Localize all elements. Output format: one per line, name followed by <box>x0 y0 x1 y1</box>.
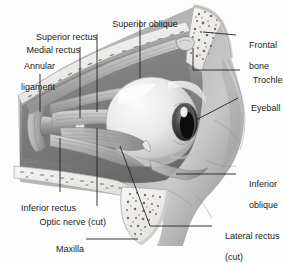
label-lateral-rectus-line2: (cut) <box>225 252 243 262</box>
figure-canvas: Superior oblique Superior rectus Medial … <box>0 0 283 263</box>
label-eyeball-text: Eyeball <box>251 103 281 113</box>
label-maxilla-text: Maxilla <box>56 244 84 254</box>
label-optic-nerve-cut-text: Optic nerve (cut) <box>39 217 106 227</box>
label-annular-ligament: Annular ligament <box>0 50 58 103</box>
label-eyeball: Eyeball <box>241 92 283 124</box>
label-superior-oblique-text: Superior oblique <box>112 19 178 29</box>
label-inferior-oblique-line2: oblique <box>249 200 278 210</box>
label-annular-ligament-line2: ligament <box>21 82 55 92</box>
label-trochlea: Trochlea <box>243 64 283 96</box>
label-lateral-rectus-line1: Lateral rectus <box>225 231 280 241</box>
label-annular-ligament-line1: Annular <box>24 61 55 71</box>
label-frontal-bone-line1: Frontal <box>249 40 277 50</box>
label-maxilla: Maxilla <box>0 233 84 263</box>
label-trochlea-text: Trochlea <box>253 75 283 85</box>
label-lateral-rectus-cut: Lateral rectus (cut) <box>215 220 283 263</box>
corneal-highlight <box>180 107 187 117</box>
label-superior-oblique: Superior oblique <box>83 8 197 40</box>
label-inferior-oblique: Inferior oblique <box>239 168 283 221</box>
label-inferior-oblique-line1: Inferior <box>249 179 277 189</box>
